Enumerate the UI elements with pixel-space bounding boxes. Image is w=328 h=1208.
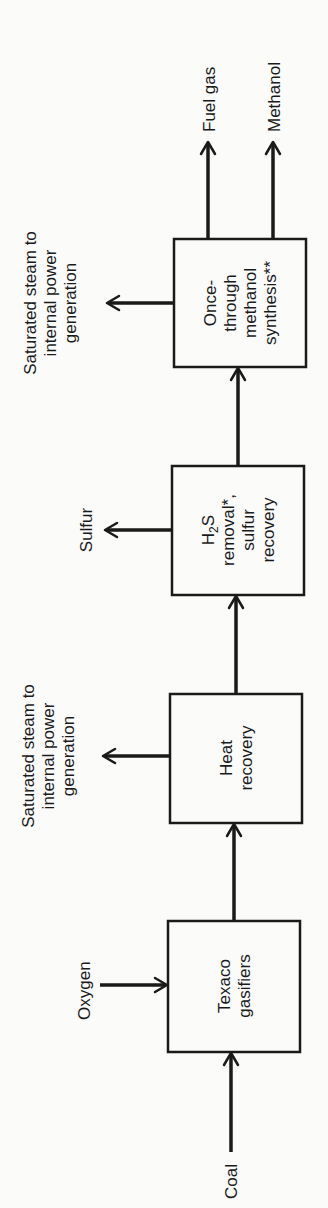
fuel-gas-label: Fuel gas <box>200 67 219 132</box>
methanol-synthesis-label: Once- through methanol synthesis** <box>201 261 280 345</box>
svg-text:synthesis**: synthesis** <box>261 261 280 345</box>
sulfur-label: Sulfur <box>77 507 96 552</box>
gasifier-to-heat-arrow <box>227 824 241 920</box>
svg-text:Saturated steam to: Saturated steam to <box>21 231 40 375</box>
svg-text:Fuel gas: Fuel gas <box>200 67 219 132</box>
texaco-gasifiers-box <box>168 921 300 1052</box>
methanol-steam-label: Saturated steam to internal power genera… <box>21 231 80 375</box>
heat-steam-label: Saturated steam to internal power genera… <box>19 684 78 828</box>
methanol-synthesis-box <box>174 239 306 367</box>
svg-text:recovery: recovery <box>237 725 256 791</box>
h2s-removal-label: H2S removal*, sulfur recovery <box>199 494 278 566</box>
svg-text:Sulfur: Sulfur <box>77 507 96 552</box>
svg-text:Methanol: Methanol <box>265 62 284 132</box>
coal-input-arrow <box>224 1053 238 1152</box>
svg-text:internal power: internal power <box>39 702 58 809</box>
svg-text:generation: generation <box>61 263 80 343</box>
svg-text:Heat: Heat <box>217 740 236 776</box>
h2s-removal-box <box>172 466 304 595</box>
svg-text:removal*,: removal*, <box>219 494 238 566</box>
svg-text:sulfur: sulfur <box>239 509 258 551</box>
coal-label: Coal <box>222 1164 241 1199</box>
svg-text:recovery: recovery <box>259 497 278 563</box>
svg-text:Once-: Once- <box>201 280 220 326</box>
sulfur-output-arrow <box>105 523 171 537</box>
svg-text:gasifiers: gasifiers <box>235 954 254 1017</box>
h2s-to-methanol-arrow <box>231 368 245 465</box>
process-flow-diagram: Texaco gasifiers Heat recovery H2S remov… <box>0 0 328 1208</box>
heat-steam-arrow <box>103 749 169 763</box>
svg-text:through: through <box>221 274 240 332</box>
h2s-formula: H2S <box>199 515 221 545</box>
heat-to-h2s-arrow <box>229 596 243 693</box>
svg-text:internal power: internal power <box>41 249 60 356</box>
methanol-steam-arrow <box>107 296 173 310</box>
methanol-product-arrow <box>266 142 280 238</box>
svg-text:Oxygen: Oxygen <box>75 961 94 1020</box>
fuel-gas-arrow <box>201 142 215 238</box>
oxygen-input-arrow <box>100 978 167 992</box>
svg-text:generation: generation <box>59 716 78 796</box>
methanol-label: Methanol <box>265 62 284 132</box>
svg-text:Texaco: Texaco <box>215 959 234 1013</box>
texaco-gasifiers-label: Texaco gasifiers <box>215 954 254 1017</box>
svg-text:Saturated steam to: Saturated steam to <box>19 684 38 828</box>
heat-recovery-label: Heat recovery <box>217 725 256 791</box>
heat-recovery-box <box>170 694 302 823</box>
svg-text:Coal: Coal <box>222 1164 241 1199</box>
oxygen-label: Oxygen <box>75 961 94 1020</box>
svg-text:methanol: methanol <box>241 268 260 338</box>
